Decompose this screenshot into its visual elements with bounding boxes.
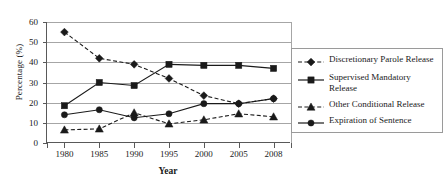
series-4: [61, 96, 276, 121]
chart-legend: Discretionary Parole ReleaseSupervised M…: [291, 48, 443, 133]
legend-label: Discretionary Parole Release: [326, 54, 433, 65]
x-tick-mark: [64, 143, 65, 148]
y-tick-label: 60: [8, 18, 38, 27]
series-1: [61, 28, 278, 107]
x-tick-label: 2008: [254, 149, 294, 159]
legend-label: Supervised Mandatory Release: [326, 72, 411, 94]
y-tick-label: 50: [8, 38, 38, 47]
x-tick-mark: [99, 143, 100, 148]
series-lines: [47, 22, 291, 143]
legend-item-1[interactable]: Discretionary Parole Release: [296, 54, 433, 66]
x-tick-mark: [134, 143, 135, 148]
x-tick-mark: [169, 143, 170, 148]
x-axis-title: Year: [46, 166, 290, 176]
legend-label: Other Conditional Release: [326, 99, 424, 110]
legend-marker-triangle-icon: [296, 99, 326, 111]
legend-label: Expiration of Sentence: [326, 115, 411, 126]
plot-area: 1980198519901995200020052008: [46, 22, 290, 143]
legend-marker-square-icon: [296, 72, 326, 84]
series-2: [61, 61, 276, 109]
y-tick-label: 40: [8, 58, 38, 67]
x-tick-mark: [274, 143, 275, 148]
y-tick-label: 30: [8, 78, 38, 87]
x-tick-mark: [204, 143, 205, 148]
legend-marker-diamond-icon: [296, 54, 326, 66]
y-tick-label: 10: [8, 118, 38, 127]
legend-item-2[interactable]: Supervised Mandatory Release: [296, 72, 411, 84]
legend-item-4[interactable]: Expiration of Sentence: [296, 115, 411, 127]
y-tick-label: 20: [8, 98, 38, 107]
legend-item-3[interactable]: Other Conditional Release: [296, 99, 424, 111]
legend-marker-circle-icon: [296, 115, 326, 127]
x-tick-mark: [239, 143, 240, 148]
x-axis-boundary-tick: [47, 143, 48, 148]
y-tick-label: 0: [8, 139, 38, 148]
x-axis-boundary-tick: [291, 143, 292, 148]
line-chart: Percentage (%) 0102030405060 19801985199…: [0, 0, 447, 186]
